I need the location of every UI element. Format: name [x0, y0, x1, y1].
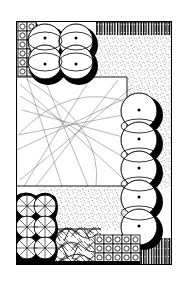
shrub-mass-southwest — [16, 193, 58, 265]
fence-top-right — [96, 22, 172, 35]
hedge-grid-south — [95, 235, 140, 262]
plan-canvas — [0, 0, 185, 283]
tree-row-east — [121, 93, 163, 250]
garden-plan-drawing — [0, 0, 185, 283]
specimen-tree-cluster — [28, 24, 98, 85]
